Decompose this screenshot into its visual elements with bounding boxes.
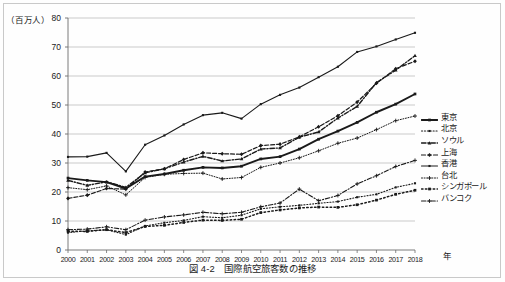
data-point-marker: [279, 94, 281, 96]
y-tick-label: 80: [41, 13, 61, 23]
legend-item-2[interactable]: ソウル: [421, 133, 503, 145]
data-point-marker: [240, 210, 244, 214]
legend-item-3[interactable]: 上海: [421, 145, 503, 157]
legend-line-swatch: [421, 146, 438, 156]
data-point-marker: [297, 156, 301, 160]
legend-line-swatch: [421, 180, 438, 190]
data-point-marker: [375, 45, 377, 47]
data-point-marker: [428, 165, 430, 167]
legend-line-swatch: [421, 192, 438, 202]
series-line: [68, 183, 415, 234]
data-point-marker: [260, 103, 262, 105]
data-point-marker: [259, 158, 262, 161]
data-point-marker: [163, 224, 166, 227]
legend-item-6[interactable]: シンガポール: [421, 180, 503, 192]
data-point-marker: [298, 207, 301, 210]
data-point-marker: [220, 152, 224, 156]
data-point-marker: [317, 125, 321, 129]
data-point-marker: [259, 205, 263, 209]
data-point-marker: [143, 218, 147, 222]
data-point-marker: [374, 128, 378, 132]
legend-line-swatch: [421, 122, 438, 132]
data-point-marker: [201, 151, 205, 155]
data-point-marker: [336, 194, 340, 198]
series-0: [67, 93, 417, 190]
data-point-marker: [201, 210, 205, 214]
data-point-marker: [317, 149, 321, 153]
data-point-marker: [66, 186, 70, 190]
legend-label: 上海: [441, 145, 456, 157]
data-point-marker: [395, 38, 397, 40]
data-point-marker: [428, 188, 431, 191]
series-1: [67, 182, 416, 235]
data-point-marker: [413, 114, 417, 118]
legend-label: 台北: [441, 168, 456, 180]
data-point-marker: [356, 51, 358, 53]
data-point-marker: [394, 103, 397, 106]
legend-item-7[interactable]: バンコク: [421, 191, 503, 203]
data-point-marker: [374, 174, 378, 178]
data-point-marker: [414, 189, 417, 192]
data-point-marker: [220, 177, 224, 181]
legend-line-swatch: [421, 169, 438, 179]
data-point-marker: [336, 141, 340, 145]
data-point-marker: [221, 219, 224, 222]
data-point-marker: [279, 206, 281, 208]
data-point-marker: [182, 171, 186, 175]
data-point-marker: [317, 138, 320, 141]
legend-item-0[interactable]: 東京: [421, 110, 503, 122]
data-point-marker: [394, 119, 398, 123]
data-point-marker: [163, 167, 167, 171]
series-4: [67, 32, 416, 173]
data-point-marker: [375, 193, 377, 195]
data-point-marker: [337, 66, 339, 68]
series-line: [68, 33, 415, 172]
data-point-marker: [259, 165, 263, 169]
data-point-marker: [202, 216, 204, 218]
data-point-marker: [106, 152, 108, 154]
legend-label: ソウル: [441, 133, 464, 145]
legend-line-swatch: [421, 134, 438, 144]
data-point-marker: [298, 87, 300, 89]
legend-item-5[interactable]: 台北: [421, 168, 503, 180]
data-point-marker: [413, 54, 417, 57]
data-point-marker: [240, 118, 242, 120]
data-point-marker: [337, 206, 340, 209]
legend-label: 香港: [441, 156, 456, 168]
legend-label: シンガポール: [441, 179, 486, 191]
data-point-marker: [428, 130, 430, 132]
data-point-marker: [414, 182, 416, 184]
data-point-marker: [85, 193, 89, 197]
data-point-marker: [394, 165, 398, 169]
data-point-marker: [201, 171, 205, 175]
data-point-marker: [279, 209, 282, 212]
legend-line-swatch: [421, 157, 438, 167]
y-tick-label: 10: [41, 216, 61, 226]
data-point-marker: [105, 184, 109, 188]
data-point-marker: [428, 199, 432, 203]
series-line: [68, 94, 415, 189]
y-tick-label: 30: [41, 158, 61, 168]
data-point-marker: [221, 217, 223, 219]
legend-label: 東京: [441, 110, 456, 122]
y-tick-label: 50: [41, 100, 61, 110]
data-point-marker: [259, 211, 262, 214]
legend-item-1[interactable]: 北京: [421, 122, 503, 134]
series-2: [66, 54, 417, 189]
legend-line-swatch: [421, 111, 438, 121]
data-point-marker: [125, 170, 127, 172]
figure-container: （百万人） 年 01020304050607080 20002001200220…: [0, 0, 505, 282]
data-point-marker: [395, 186, 397, 188]
data-point-marker: [86, 179, 89, 182]
data-point-marker: [202, 166, 205, 169]
y-tick-label: 40: [41, 129, 61, 139]
legend-label: 北京: [441, 121, 456, 133]
figure-caption: 図 4-2 国際航空旅客数の推移: [0, 261, 505, 275]
data-point-marker: [163, 134, 165, 136]
data-point-marker: [317, 206, 320, 209]
series-line: [68, 56, 415, 188]
data-point-marker: [202, 219, 205, 222]
legend-item-4[interactable]: 香港: [421, 156, 503, 168]
y-tick-label: 20: [41, 187, 61, 197]
data-point-marker: [221, 112, 223, 114]
